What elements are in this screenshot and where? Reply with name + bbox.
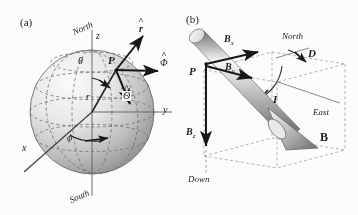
bx-label: Bx	[224, 34, 234, 47]
panel-b-id: (b)	[186, 14, 199, 25]
east-direction-line	[278, 82, 340, 103]
label-east: East	[313, 108, 329, 117]
axis-z-label: z	[96, 31, 100, 41]
label-north-b: North	[282, 32, 303, 41]
r-hat-glyph: r	[139, 24, 143, 34]
theta-angle-label: θ	[78, 56, 83, 66]
north-direction-line	[276, 48, 309, 58]
by-label: By	[225, 62, 235, 75]
phi-hat-glyph: Φ	[160, 58, 168, 68]
bz-label: Bz	[186, 127, 195, 140]
point-p-label-a: P	[108, 55, 115, 66]
by-symbol: B	[225, 61, 232, 72]
theta-hat-label: Θ	[122, 91, 131, 101]
panel-a-id: (a)	[20, 17, 32, 28]
bz-subscript: z	[193, 132, 196, 140]
declination-label: D	[308, 48, 316, 59]
phi-hat-label: Φ	[160, 58, 168, 68]
inclination-label: I	[273, 94, 277, 105]
theta-hat-glyph: Θ	[123, 91, 130, 101]
panel-a-graphics	[0, 0, 358, 215]
r-hat-label: r	[139, 24, 143, 34]
radius-label: r	[86, 92, 90, 102]
axis-y-label: y	[163, 105, 167, 115]
bz-symbol: B	[186, 126, 193, 137]
point-p-label-b: P	[189, 66, 196, 77]
bx-symbol: B	[224, 33, 231, 44]
figure-root: (a) North z y x θ P r ϕ r Φ Θ South (b) …	[0, 0, 358, 215]
phi-angle-label: ϕ	[67, 133, 72, 143]
b-field-label: B	[320, 131, 328, 143]
bx-subscript: x	[231, 39, 234, 47]
by-subscript: y	[232, 67, 235, 75]
point-p-marker	[114, 68, 117, 71]
phi-hat-vector	[116, 70, 158, 71]
point-p-b-marker	[204, 62, 207, 65]
panel-b-graphics	[187, 26, 345, 174]
label-down: Down	[188, 175, 210, 184]
axis-x-label: x	[22, 143, 26, 153]
